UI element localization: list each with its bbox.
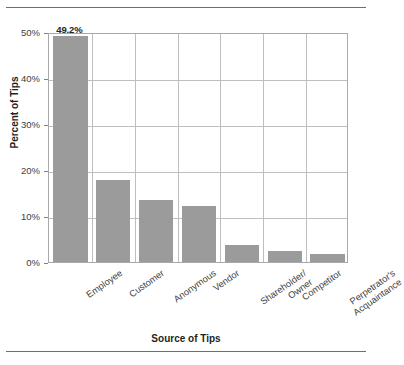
- horizontal-gridline: [49, 80, 347, 81]
- top-divider-rule: [6, 7, 366, 8]
- bar: [310, 254, 344, 262]
- horizontal-gridline: [49, 126, 347, 127]
- x-axis-tick-label: Customer: [128, 268, 167, 300]
- vertical-gridline: [135, 34, 136, 262]
- bar: [268, 251, 302, 263]
- x-axis-tick-label: Perpetrator'sAcquaintance: [345, 268, 404, 318]
- bar: [139, 200, 173, 262]
- y-axis-tick-label: 10%: [0, 211, 40, 222]
- y-axis-tick-label: 0%: [0, 257, 40, 268]
- vertical-gridline: [220, 34, 221, 262]
- y-axis-tick-mark: [44, 263, 48, 264]
- x-axis-tick-label: Vendor: [211, 268, 241, 294]
- bottom-divider-rule: [6, 351, 366, 352]
- vertical-gridline: [92, 34, 93, 262]
- y-axis-tick-label: 20%: [0, 165, 40, 176]
- bar: [182, 206, 216, 262]
- vertical-gridline: [306, 34, 307, 262]
- x-axis-title: Source of Tips: [0, 333, 372, 344]
- vertical-gridline: [263, 34, 264, 262]
- bar: [53, 36, 87, 262]
- plot-area: [48, 33, 348, 263]
- y-axis-tick-label: 30%: [0, 119, 40, 130]
- vertical-gridline: [178, 34, 179, 262]
- y-axis-tick-label: 50%: [0, 27, 40, 38]
- y-axis-tick-label: 40%: [0, 73, 40, 84]
- x-axis-tick-label: Employee: [85, 268, 125, 301]
- horizontal-gridline: [49, 172, 347, 173]
- bar: [96, 180, 130, 262]
- bar: [225, 245, 259, 262]
